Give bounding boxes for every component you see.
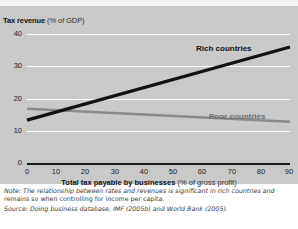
x-tick-label: 20 <box>81 167 89 176</box>
x-tick-label: 10 <box>52 167 60 176</box>
x-tick-label: 40 <box>140 167 148 176</box>
poor-countries-label: Poor countries <box>209 112 265 121</box>
x-tick-label: 0 <box>25 167 29 176</box>
x-tick-label: 90 <box>285 167 293 176</box>
x-axis-line <box>27 163 290 165</box>
x-tick-label: 30 <box>111 167 119 176</box>
rich-countries-label: Rich countries <box>196 44 252 53</box>
figure-root: Tax revenue (% of GDP) 40 30 20 10 0 Ric… <box>0 0 298 229</box>
x-tick-label: 70 <box>228 167 236 176</box>
figure-note: Note: The relationship between rates and… <box>4 187 294 203</box>
source-line: Source: Doing business database, IMF (20… <box>4 205 228 212</box>
figure-source: Source: Doing business database, IMF (20… <box>4 205 294 213</box>
chart-panel: Tax revenue (% of GDP) 40 30 20 10 0 Ric… <box>0 6 298 184</box>
x-tick-label: 80 <box>257 167 265 176</box>
note-line-2: remains so when controlling for income p… <box>4 195 164 202</box>
rich-countries-line <box>27 47 290 120</box>
figure-footer: Note: The relationship between rates and… <box>0 186 298 213</box>
x-tick-label: 50 <box>169 167 177 176</box>
note-line-1: Note: The relationship between rates and… <box>4 187 275 194</box>
x-tick-label: 60 <box>198 167 206 176</box>
